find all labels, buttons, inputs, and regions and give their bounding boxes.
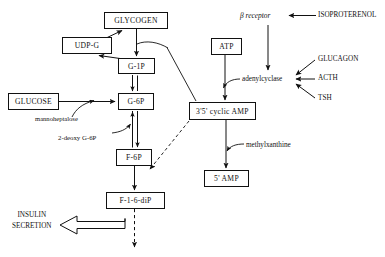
node-atp[interactable]: ATP bbox=[211, 38, 242, 55]
edge-glucagon-to-adenylcyclase bbox=[296, 60, 315, 75]
node-5-amp[interactable]: 5' AMP bbox=[204, 170, 249, 187]
diagram-connectors bbox=[0, 0, 385, 257]
node-atp-label: ATP bbox=[219, 42, 233, 51]
node-5-amp-label: 5' AMP bbox=[214, 174, 239, 183]
node-f-1-6-dip-label: F-1-6-diP bbox=[119, 196, 151, 205]
label-beta-receptor: β receptor bbox=[240, 11, 270, 20]
node-f-6p-label: F-6P bbox=[126, 153, 142, 162]
edge-g1p-to-camp bbox=[167, 48, 196, 102]
node-udp-g-label: UDP-G bbox=[75, 41, 100, 50]
node-cyclic-amp-label: 3'5' cyclic AMP bbox=[196, 107, 249, 116]
edge-g1p-to-udpg bbox=[99, 56, 120, 59]
label-2-deoxy-g-6p: 2-deoxy G-6P bbox=[58, 134, 96, 141]
label-mannoheptalose: mannoheptalose bbox=[35, 115, 78, 122]
label-acth: ACTH bbox=[318, 74, 338, 82]
label-glucagon: GLUCAGON bbox=[318, 55, 358, 63]
edge-adenylcyclase-hook bbox=[224, 79, 241, 88]
pathway-diagram: GLYCOGEN UDP-G G-1P GLUCOSE G-6P F-6P F-… bbox=[0, 0, 385, 257]
node-g-6p[interactable]: G-6P bbox=[118, 93, 154, 110]
node-f-1-6-dip[interactable]: F-1-6-diP bbox=[106, 192, 165, 209]
edge-camp-to-f6p-dashed bbox=[150, 121, 189, 169]
node-g-6p-label: G-6P bbox=[127, 97, 144, 106]
edge-hook-g1p-camp bbox=[137, 42, 168, 48]
label-insulin-secretion-line1: INSULIN bbox=[12, 210, 52, 221]
node-glycogen[interactable]: GLYCOGEN bbox=[104, 12, 168, 29]
node-cyclic-amp[interactable]: 3'5' cyclic AMP bbox=[189, 102, 256, 120]
node-glycogen-label: GLYCOGEN bbox=[114, 16, 157, 25]
label-tsh: TSH bbox=[318, 94, 332, 102]
insulin-secretion-block-arrow bbox=[60, 216, 125, 234]
node-glucose-label: GLUCOSE bbox=[15, 97, 52, 106]
node-g-1p[interactable]: G-1P bbox=[118, 58, 155, 74]
label-adenylcyclase: adenylcyclase bbox=[242, 75, 282, 83]
edge-2deoxy-hook bbox=[112, 124, 131, 133]
node-g-1p-label: G-1P bbox=[128, 62, 145, 71]
label-methylxanthine: methylxanthine bbox=[246, 141, 291, 149]
node-udp-g[interactable]: UDP-G bbox=[62, 37, 112, 54]
label-insulin-secretion: INSULIN SECRETION bbox=[12, 210, 52, 232]
node-glucose[interactable]: GLUCOSE bbox=[8, 93, 59, 110]
label-insulin-secretion-line2: SECRETION bbox=[12, 221, 52, 232]
node-f-6p[interactable]: F-6P bbox=[116, 149, 152, 166]
label-isoproterenol: ISOPROTERENOL bbox=[318, 11, 376, 19]
edge-methylxanthine-hook bbox=[227, 144, 244, 151]
edge-tsh-to-adenylcyclase bbox=[296, 84, 315, 98]
